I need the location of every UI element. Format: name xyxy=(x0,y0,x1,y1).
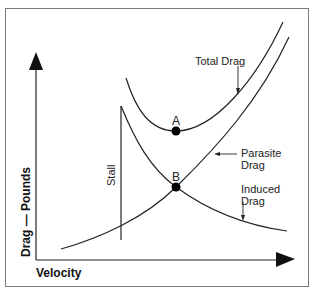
y-axis-arrowhead-icon xyxy=(29,52,43,70)
parasite-drag-label-line2: Drag xyxy=(241,159,265,171)
induced-drag-label-line1: Induced xyxy=(241,183,280,195)
y-axis-label: Drag — Pounds xyxy=(19,167,33,257)
point-b-label: B xyxy=(172,171,180,183)
stall-label: Stall xyxy=(105,165,117,186)
total-drag-label: Total Drag xyxy=(195,55,245,67)
point-a-label: A xyxy=(172,115,180,127)
x-axis-label: Velocity xyxy=(36,266,81,280)
induced-drag-label-line2: Drag xyxy=(241,195,265,207)
parasite-drag-curve xyxy=(61,37,289,249)
x-axis-arrowhead-icon xyxy=(276,252,295,267)
parasite-drag-arrow-icon xyxy=(214,152,220,156)
total-drag-curve xyxy=(126,22,283,131)
parasite-drag-label-line1: Parasite xyxy=(241,147,281,159)
